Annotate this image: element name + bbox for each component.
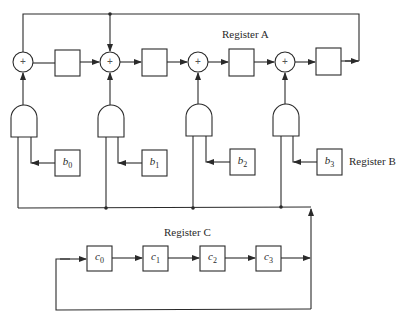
xor-symbol-2: + xyxy=(188,52,208,72)
register-c-cell-1-label: c1 xyxy=(143,250,168,265)
register-c-cell-2-label: c2 xyxy=(200,250,225,265)
and-gate-2 xyxy=(186,104,212,136)
register-b xyxy=(18,136,342,208)
and-gate-3 xyxy=(273,104,299,136)
register-a-cell-1 xyxy=(142,49,167,76)
xor-symbol-3: + xyxy=(275,52,295,72)
and-gate-0 xyxy=(11,105,37,137)
register-a-cell-0 xyxy=(55,50,80,76)
register-b-cell-2-label: b2 xyxy=(230,154,255,169)
register-c-cell-3-label: c3 xyxy=(256,250,281,265)
register-c-label: Register C xyxy=(164,226,211,238)
register-a-cell-3 xyxy=(316,48,341,75)
register-b-cell-0-label: b0 xyxy=(55,155,80,170)
junction-dot xyxy=(108,12,112,16)
register-a-cell-2 xyxy=(229,49,254,76)
register-b-cell-1-label: b1 xyxy=(142,155,167,170)
and-gates xyxy=(11,73,299,137)
xor-symbol-0: + xyxy=(13,52,33,72)
register-a-label: Register A xyxy=(222,28,269,40)
register-b-cell-3-label: b3 xyxy=(317,154,342,169)
register-b-label: Register B xyxy=(349,155,396,167)
register-c-cell-0-label: c0 xyxy=(87,250,112,265)
xor-symbol-1: + xyxy=(100,52,120,72)
and-gate-1 xyxy=(98,105,124,137)
